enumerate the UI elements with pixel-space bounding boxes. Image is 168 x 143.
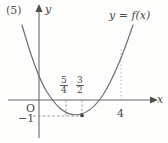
y-axis-arrowhead xyxy=(35,4,42,12)
item-number-label: (5) xyxy=(6,5,22,16)
fraction-five-fourths-label: 5 4 xyxy=(60,76,68,96)
curve-equation-label: y = f(x) xyxy=(109,10,150,21)
x-axis-label: x xyxy=(157,94,163,105)
fraction-denominator: 2 xyxy=(76,85,84,95)
fraction-three-halves-label: 3 2 xyxy=(76,76,84,96)
fraction-denominator: 4 xyxy=(60,85,68,95)
y-value-minus-one-label: −1 xyxy=(18,113,34,124)
math-figure-parabola: (5) y x y = f(x) O −1 4 5 4 3 2 xyxy=(0,0,168,143)
curve-point-marker xyxy=(80,114,84,118)
y-axis-label: y xyxy=(45,4,51,15)
fraction-numerator: 3 xyxy=(76,76,84,85)
x-tick-four-label: 4 xyxy=(117,108,124,119)
fraction-numerator: 5 xyxy=(60,76,68,85)
